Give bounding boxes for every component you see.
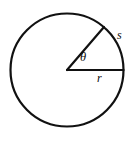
central-angle-label: θ	[80, 51, 86, 64]
arc-length-label: s	[117, 29, 122, 41]
sector-illustration	[0, 0, 130, 141]
circle-sector-diagram: s r θ	[0, 0, 130, 141]
radius-label: r	[97, 72, 102, 84]
